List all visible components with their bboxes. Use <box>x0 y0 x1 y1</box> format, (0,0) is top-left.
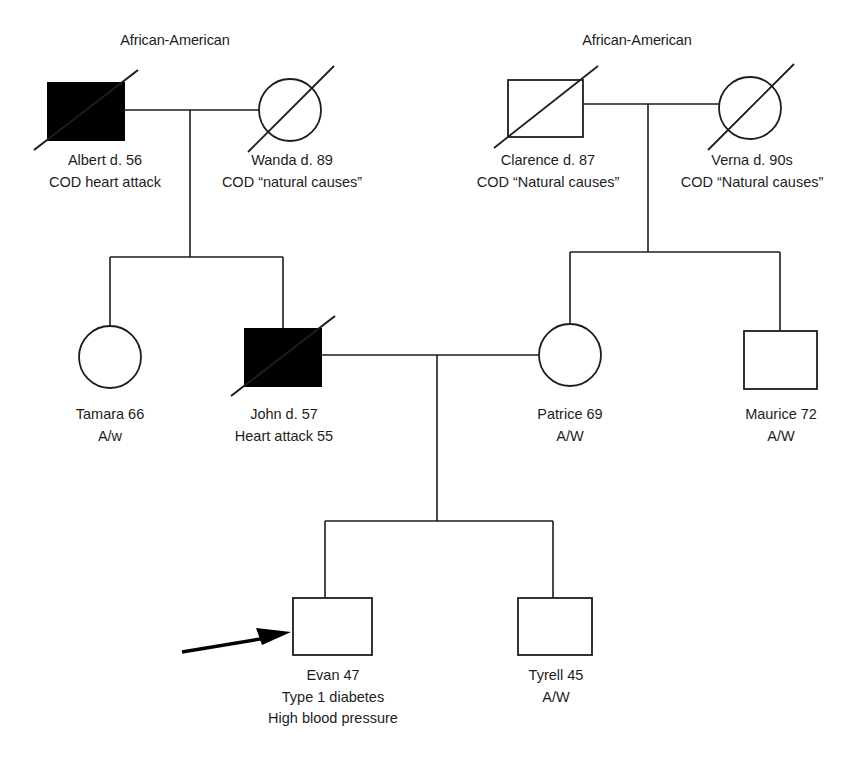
ethnicity-label-right: African-American <box>582 30 692 51</box>
symbol-tamara-circle <box>79 326 141 388</box>
person-label-tyrell: Tyrell 45 A/W <box>529 665 584 708</box>
person-name-maurice: Maurice 72 <box>745 404 817 426</box>
pedigree-diagram: African-American African-American Albert… <box>0 0 848 761</box>
person-name-verna: Verna d. 90s <box>681 150 824 172</box>
person-detail-maurice-0: A/W <box>745 426 817 448</box>
person-name-tyrell: Tyrell 45 <box>529 665 584 687</box>
person-detail-tamara-0: A/w <box>76 426 145 448</box>
person-detail-evan-0: Type 1 diabetes <box>268 687 398 709</box>
person-label-john: John d. 57 Heart attack 55 <box>235 404 333 447</box>
symbol-evan-square <box>293 598 372 655</box>
symbol-maurice-square <box>744 331 817 389</box>
person-detail-tyrell-0: A/W <box>529 687 584 709</box>
pedigree-canvas <box>0 0 848 761</box>
person-label-verna: Verna d. 90s COD “Natural causes” <box>681 150 824 193</box>
person-name-clarence: Clarence d. 87 <box>477 150 620 172</box>
symbol-patrice-circle <box>539 324 601 386</box>
person-label-tamara: Tamara 66 A/w <box>76 404 145 447</box>
person-label-clarence: Clarence d. 87 COD “Natural causes” <box>477 150 620 193</box>
person-label-albert: Albert d. 56 COD heart attack <box>49 150 161 193</box>
person-name-wanda: Wanda d. 89 <box>222 150 362 172</box>
person-detail-evan-1: High blood pressure <box>268 708 398 730</box>
ethnicity-label-left: African-American <box>120 30 230 51</box>
person-detail-patrice-0: A/W <box>537 426 602 448</box>
proband-arrow-icon <box>182 628 291 652</box>
person-name-albert: Albert d. 56 <box>49 150 161 172</box>
person-detail-clarence-0: COD “Natural causes” <box>477 172 620 194</box>
person-label-maurice: Maurice 72 A/W <box>745 404 817 447</box>
person-detail-albert-0: COD heart attack <box>49 172 161 194</box>
person-label-evan: Evan 47 Type 1 diabetes High blood press… <box>268 665 398 730</box>
person-detail-verna-0: COD “Natural causes” <box>681 172 824 194</box>
person-name-patrice: Patrice 69 <box>537 404 602 426</box>
symbol-tyrell-square <box>518 598 592 655</box>
person-name-tamara: Tamara 66 <box>76 404 145 426</box>
person-label-patrice: Patrice 69 A/W <box>537 404 602 447</box>
person-name-john: John d. 57 <box>235 404 333 426</box>
person-detail-wanda-0: COD “natural causes” <box>222 172 362 194</box>
person-detail-john-0: Heart attack 55 <box>235 426 333 448</box>
person-name-evan: Evan 47 <box>268 665 398 687</box>
person-label-wanda: Wanda d. 89 COD “natural causes” <box>222 150 362 193</box>
